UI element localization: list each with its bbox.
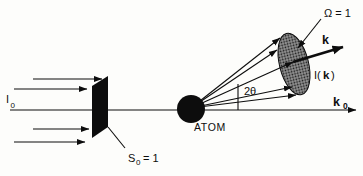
label-ik-open: I( — [314, 69, 321, 81]
atom-circle — [177, 95, 205, 123]
label-ik-close: ) — [331, 69, 335, 81]
s0-leader-line — [108, 127, 125, 148]
label-k0: k — [333, 95, 340, 109]
label-omega: Ω = 1 — [324, 7, 351, 19]
label-i0-sub: 0 — [11, 101, 16, 110]
label-2theta: 2θ — [244, 85, 256, 97]
scattering-diagram: I 0 S 0 = 1 ATOM 2θ Ω = 1 k I( k ) k 0 — [0, 0, 363, 176]
label-k: k — [322, 33, 329, 47]
label-s0-eq: = 1 — [143, 152, 159, 164]
label-s0: S — [128, 152, 135, 164]
label-ik-k: k — [323, 69, 330, 81]
fan-arrow-3 — [191, 62, 293, 108]
collimator-slab — [92, 76, 108, 138]
label-k0-sub: 0 — [343, 101, 348, 111]
detector-solid-angle-ellipse — [272, 30, 315, 98]
label-s0-sub: 0 — [136, 158, 141, 167]
diagram-canvas: I 0 S 0 = 1 ATOM 2θ Ω = 1 k I( k ) k 0 — [0, 0, 363, 176]
fan-arrow-1 — [191, 38, 280, 108]
omega-leader-arrow — [298, 19, 321, 48]
label-i0: I — [6, 93, 9, 105]
label-atom: ATOM — [194, 121, 226, 133]
